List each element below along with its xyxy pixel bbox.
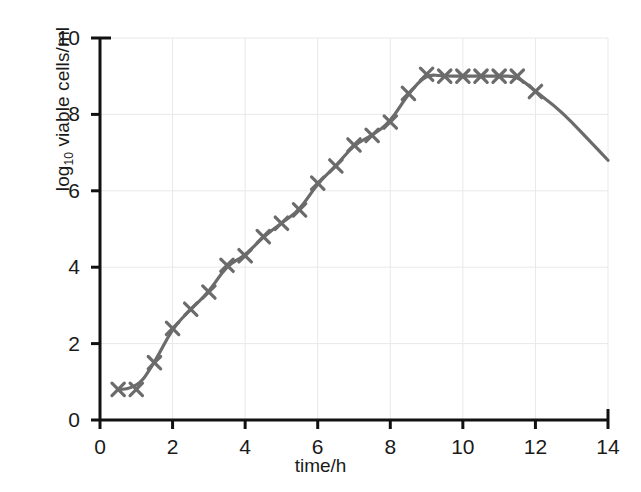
- data-series: [112, 68, 608, 396]
- y-tick-label: 2: [40, 333, 80, 354]
- y-axis-label-subscript: 10: [62, 152, 76, 166]
- growth-curve-chart: log10 viable cells/ml time/h 02468100246…: [0, 0, 641, 492]
- y-tick-label: 4: [40, 256, 80, 277]
- x-tick-label: 2: [153, 436, 193, 457]
- y-tick-label: 6: [40, 180, 80, 201]
- x-tick-label: 8: [370, 436, 410, 457]
- x-axis-label: time/h: [0, 455, 641, 477]
- y-tick-label: 8: [40, 103, 80, 124]
- y-tick-label: 10: [40, 27, 80, 48]
- x-tick-label: 14: [588, 436, 628, 457]
- x-tick-label: 12: [515, 436, 555, 457]
- y-tick-label: 0: [40, 409, 80, 430]
- x-tick-label: 0: [80, 436, 120, 457]
- x-tick-label: 10: [443, 436, 483, 457]
- x-tick-label: 4: [225, 436, 265, 457]
- x-tick-label: 6: [298, 436, 338, 457]
- plot-canvas: [0, 0, 641, 492]
